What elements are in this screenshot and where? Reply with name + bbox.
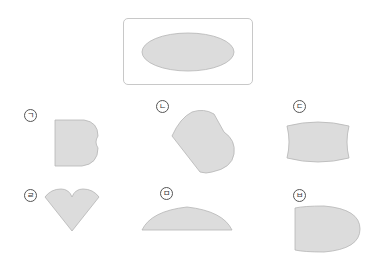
reference-frame <box>123 18 253 85</box>
option-shape-3[interactable] <box>285 120 351 166</box>
option-label-2: ㄴ <box>156 100 169 113</box>
option-shape-2[interactable] <box>170 108 236 174</box>
option-shape-4[interactable] <box>43 187 101 233</box>
reference-ellipse <box>140 32 236 72</box>
option-label-5: ㅁ <box>160 187 173 200</box>
option-label-6: ㅂ <box>293 189 306 202</box>
option-shape-6[interactable] <box>294 205 362 253</box>
option-label-4: ㄹ <box>24 189 37 202</box>
option-label-1: ㄱ <box>24 109 37 122</box>
option-shape-5[interactable] <box>141 205 233 231</box>
option-shape-1[interactable] <box>54 118 100 168</box>
option-label-3: ㄷ <box>293 100 306 113</box>
